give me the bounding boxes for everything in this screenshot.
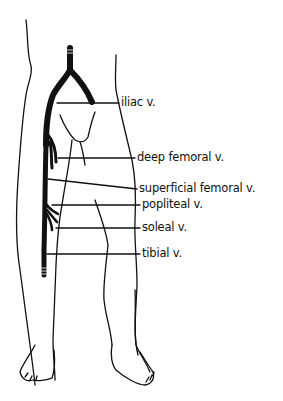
- venous-anatomy-diagram: iliac v. deep femoral v. superficial fem…: [0, 0, 283, 401]
- crotch-contour: [60, 112, 95, 142]
- label-deep-femoral-vein: deep femoral v.: [137, 152, 224, 164]
- left-body-contour: [16, 20, 35, 385]
- leader-superficial-femoral: [48, 179, 137, 189]
- iliac-branch: [70, 70, 92, 102]
- label-tibial-vein: tibial v.: [142, 248, 182, 260]
- label-superficial-femoral-vein: superficial femoral v.: [139, 183, 255, 195]
- deep-femoral-vein: [48, 135, 56, 168]
- soleal-branches: [47, 205, 58, 230]
- label-soleal-vein: soleal v.: [142, 222, 187, 234]
- label-popliteal-vein: popliteal v.: [142, 199, 203, 211]
- right-leg-lower-contour: [135, 290, 150, 372]
- inner-right-leg-contour: [80, 142, 112, 345]
- iliac-vein: [46, 48, 70, 145]
- inner-left-leg-contour: [53, 140, 72, 380]
- label-iliac-vein: iliac v.: [121, 97, 156, 109]
- femoral-vein: [44, 145, 46, 275]
